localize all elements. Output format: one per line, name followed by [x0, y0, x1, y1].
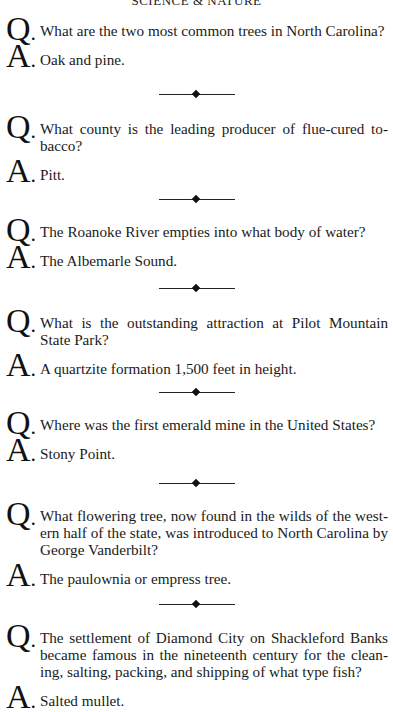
- qa-item: Q. What are the two most common trees in…: [6, 14, 388, 68]
- page-header: Science & Nature: [0, 0, 393, 9]
- question-marker: Q.: [6, 621, 36, 655]
- question-row: Q. The settlement of Diamond City on Sha…: [6, 621, 388, 680]
- answer-row: A. Stony Point.: [6, 435, 388, 462]
- section-divider: [159, 600, 235, 610]
- answer-marker: A.: [6, 41, 36, 75]
- answer-row: A. The Albemarle Sound.: [6, 242, 388, 269]
- question-row: Q. The Roanoke River empties into what b…: [6, 215, 388, 240]
- section-divider: [159, 90, 235, 100]
- question-text: What are the two most common trees in No…: [40, 14, 388, 39]
- qa-item: Q. What flowering tree, now found in the…: [6, 499, 388, 587]
- answer-text: The paulownia or empress tree.: [40, 560, 388, 587]
- question-marker: Q.: [6, 112, 36, 146]
- answer-text: Salted mullet.: [40, 682, 388, 709]
- answer-row: A. Oak and pine.: [6, 41, 388, 68]
- diamond-ornament-icon: [192, 600, 200, 608]
- qa-item: Q. What is the outstanding attraction at…: [6, 306, 388, 377]
- answer-text: Oak and pine.: [40, 41, 388, 68]
- answer-row: A. Salted mullet.: [6, 682, 388, 709]
- answer-marker: A.: [6, 682, 36, 712]
- answer-marker: A.: [6, 350, 36, 384]
- question-row: Q. What county is the leading producer o…: [6, 112, 388, 154]
- qa-item: Q. The settlement of Diamond City on Sha…: [6, 621, 388, 709]
- question-text: What is the outstanding attraction at Pi…: [40, 306, 388, 348]
- diamond-ornament-icon: [192, 90, 200, 98]
- answer-row: A. The paulownia or empress tree.: [6, 560, 388, 587]
- diamond-ornament-icon: [192, 195, 200, 203]
- diamond-ornament-icon: [192, 388, 200, 396]
- question-row: Q. What are the two most common trees in…: [6, 14, 388, 39]
- question-marker: Q.: [6, 499, 36, 533]
- qa-item: Q. Where was the first emerald mine in t…: [6, 408, 388, 462]
- answer-text: Pitt.: [40, 156, 388, 183]
- question-text: The settlement of Diamond City on Shackl…: [40, 621, 388, 680]
- answer-text: The Albemarle Sound.: [40, 242, 388, 269]
- question-row: Q. Where was the first emerald mine in t…: [6, 408, 388, 433]
- section-divider: [159, 195, 235, 205]
- answer-marker: A.: [6, 435, 36, 469]
- question-marker: Q.: [6, 306, 36, 340]
- question-row: Q. What is the outstanding attraction at…: [6, 306, 388, 348]
- answer-marker: A.: [6, 560, 36, 594]
- qa-item: Q. The Roanoke River empties into what b…: [6, 215, 388, 269]
- question-text: The Roanoke River empties into what body…: [40, 215, 388, 240]
- question-text: Where was the first emerald mine in the …: [40, 408, 388, 433]
- diamond-ornament-icon: [192, 479, 200, 487]
- question-row: Q. What flowering tree, now found in the…: [6, 499, 388, 558]
- question-text: What flowering tree, now found in the wi…: [40, 499, 388, 558]
- answer-row: A. Pitt.: [6, 156, 388, 183]
- section-divider: [159, 284, 235, 294]
- section-divider: [159, 479, 235, 489]
- question-text: What county is the leading producer of f…: [40, 112, 388, 154]
- qa-item: Q. What county is the leading producer o…: [6, 112, 388, 183]
- section-divider: [159, 388, 235, 398]
- answer-marker: A.: [6, 242, 36, 276]
- answer-text: A quartzite formation 1,500 feet in heig…: [40, 350, 388, 377]
- answer-row: A. A quartzite formation 1,500 feet in h…: [6, 350, 388, 377]
- answer-text: Stony Point.: [40, 435, 388, 462]
- diamond-ornament-icon: [192, 284, 200, 292]
- answer-marker: A.: [6, 156, 36, 190]
